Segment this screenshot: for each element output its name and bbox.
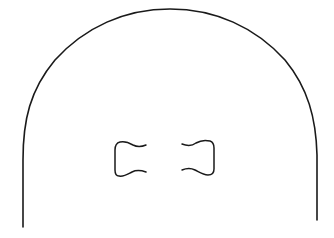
left-bracket-shape [115, 142, 146, 177]
arch-outline [23, 9, 317, 227]
right-bracket-shape [182, 140, 214, 175]
diagram-svg [0, 0, 334, 238]
diagram-canvas [0, 0, 334, 238]
